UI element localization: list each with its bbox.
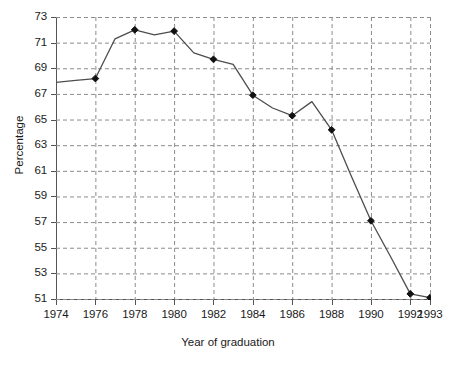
x-tick-label: 1982 [191,308,235,320]
x-tick-label: 1974 [34,308,78,320]
x-tick-mark [213,300,214,305]
x-tick-mark [332,300,333,305]
x-tick-label: 1984 [231,308,275,320]
y-axis-title: Percentage [13,90,25,200]
x-tick-mark [410,300,411,305]
data-point-marker [92,75,99,82]
x-tick-label: 1988 [310,308,354,320]
x-tick-label: 1980 [152,308,196,320]
y-tick-label: 55 [21,242,47,254]
x-tick-label: 1976 [73,308,117,320]
plot-area [56,17,430,299]
x-tick-label: 1990 [349,308,393,320]
y-tick-label: 53 [21,267,47,279]
x-tick-mark [56,300,57,305]
data-point-marker [131,26,138,33]
y-tick-label: 57 [21,216,47,228]
x-tick-mark [95,300,96,305]
data-point-marker [249,92,256,99]
x-tick-mark [292,300,293,305]
x-tick-mark [135,300,136,305]
x-tick-mark [430,300,431,305]
x-tick-mark [253,300,254,305]
data-point-marker [368,217,375,224]
x-tick-label: 1978 [113,308,157,320]
series-plot [56,17,431,300]
line-chart: 737169676563615957555351 197419761978198… [0,0,456,365]
x-tick-mark [371,300,372,305]
data-point-marker [210,56,217,63]
y-tick-label: 69 [21,62,47,74]
data-point-marker [407,290,414,297]
y-tick-label: 71 [21,37,47,49]
x-axis-title: Year of graduation [0,336,456,348]
x-tick-label: 1993 [408,308,452,320]
y-tick-label: 73 [21,11,47,23]
x-tick-mark [174,300,175,305]
data-line [56,30,430,298]
x-tick-label: 1986 [270,308,314,320]
y-tick-label: 51 [21,293,47,305]
